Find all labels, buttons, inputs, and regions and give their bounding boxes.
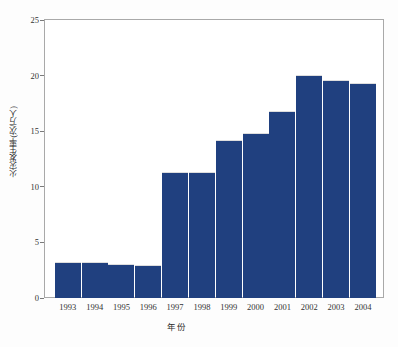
y-axis-tick-mark [40, 186, 44, 187]
y-axis-tick-mark [40, 298, 44, 299]
bar-series [45, 20, 383, 298]
x-axis-title: 年份 [0, 320, 398, 332]
bar[interactable] [82, 262, 108, 298]
y-axis-tick-mark [40, 242, 44, 243]
x-axis-tick-label: 2004 [343, 302, 383, 312]
y-axis-tick-mark [40, 20, 44, 21]
y-axis-tick-mark [40, 131, 44, 132]
bar[interactable] [189, 172, 215, 298]
bar[interactable] [296, 75, 322, 298]
x-axis-title-text: 年份 [167, 322, 187, 332]
y-axis-tick: 20 [0, 70, 44, 82]
bar[interactable] [269, 111, 295, 298]
y-axis-tick: 5 [0, 236, 44, 248]
bar[interactable] [243, 133, 269, 298]
y-axis-tick: 0 [0, 292, 44, 304]
y-axis-tick: 10 [0, 181, 44, 193]
y-axis-title: 火灾发生率(次/万人) [9, 106, 23, 178]
bar[interactable] [55, 262, 81, 298]
bar[interactable] [323, 80, 349, 298]
x-axis: 1993199419951996199719981999200020012002… [45, 298, 383, 318]
bar[interactable] [135, 265, 161, 298]
chart-figure: 0510152025 火灾发生率(次/万人) 19931994199519961… [0, 0, 398, 347]
bar[interactable] [162, 172, 188, 298]
bar[interactable] [108, 264, 134, 298]
y-axis-tick-mark [40, 75, 44, 76]
bar[interactable] [350, 83, 376, 298]
bar[interactable] [216, 140, 242, 298]
y-axis-tick: 25 [0, 14, 44, 26]
